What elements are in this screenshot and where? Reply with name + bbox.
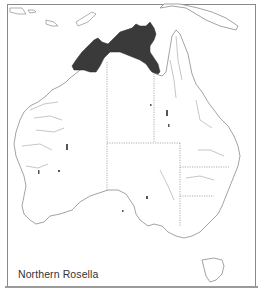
mainland-coastline [14, 30, 240, 238]
australia-map [0, 0, 264, 294]
new-guinea-coastline [160, 4, 238, 30]
indonesian-islands [10, 8, 96, 26]
map-caption: Northern Rosella [18, 268, 98, 280]
tasmania-coastline [202, 258, 224, 282]
